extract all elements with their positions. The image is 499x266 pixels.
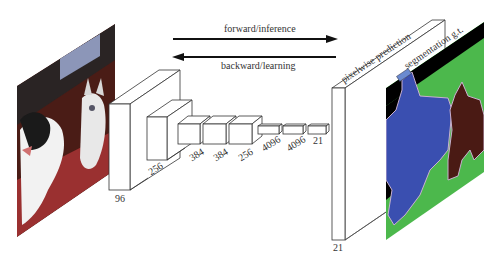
- backward-label: backward/learning: [221, 60, 295, 71]
- forward-arrow: [173, 35, 338, 43]
- fc-layer-7: [283, 124, 306, 134]
- layer-label-21: 21: [313, 135, 323, 146]
- forward-label: forward/inference: [224, 23, 296, 34]
- fc-layer-6: [258, 124, 282, 134]
- layer-label-96: 96: [115, 193, 125, 204]
- fcn-diagram: forward/inference backward/learning 96 2…: [0, 0, 499, 266]
- prediction-depth-label: 21: [333, 242, 343, 253]
- fc-layer-8: [308, 124, 329, 134]
- conv-layer-5: [229, 116, 262, 144]
